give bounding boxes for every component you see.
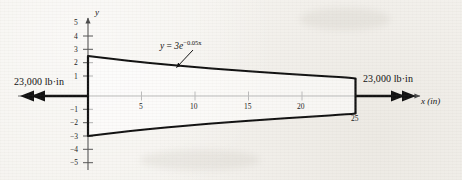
equation-y-symbol: y bbox=[160, 41, 164, 51]
equation-leader-line bbox=[177, 50, 194, 68]
x-tick-label-20: 20 bbox=[297, 103, 305, 111]
equation-exponent: −0.05x bbox=[183, 39, 201, 46]
y-tick-label-4: 4 bbox=[74, 33, 78, 41]
x-end-label-25: 25 bbox=[351, 115, 359, 123]
left-moment-label: 23,000 lb·in bbox=[14, 77, 64, 87]
right-moment-arrow bbox=[356, 91, 417, 102]
y-tick-label-neg-1: −1 bbox=[70, 106, 78, 114]
y-tick-label-neg-2: −2 bbox=[70, 119, 78, 127]
y-tick-label-2: 2 bbox=[74, 59, 78, 67]
y-tick-label-5: 5 bbox=[74, 19, 78, 27]
y-tick-label-3: 3 bbox=[74, 46, 78, 54]
curve-equation-label: y = 3e−0.05x bbox=[160, 40, 202, 52]
y-tick-label-neg-5: −5 bbox=[70, 159, 78, 167]
y-tick-label-neg-3: −3 bbox=[70, 133, 78, 141]
y-tick-label-neg-4: −4 bbox=[70, 146, 78, 154]
beam-outline bbox=[88, 56, 356, 136]
equation-equals: = bbox=[167, 41, 172, 51]
x-tick-label-10: 10 bbox=[190, 103, 198, 111]
x-axis-label: x (in) bbox=[421, 97, 440, 106]
equation-coefficient: 3e bbox=[174, 41, 183, 51]
x-tick-label-5: 5 bbox=[139, 103, 143, 111]
y-tick-label-1: 1 bbox=[74, 73, 78, 81]
beam-fill bbox=[88, 56, 356, 136]
right-moment-label: 23,000 lb·in bbox=[363, 74, 413, 84]
y-axis-label: y bbox=[95, 8, 99, 17]
x-tick-label-15: 15 bbox=[244, 103, 252, 111]
left-moment-arrow bbox=[20, 91, 88, 102]
beam-diagram-figure: y x (in) 1 2 3 4 5 −1 −2 −3 −4 −5 5 10 1… bbox=[0, 0, 462, 180]
